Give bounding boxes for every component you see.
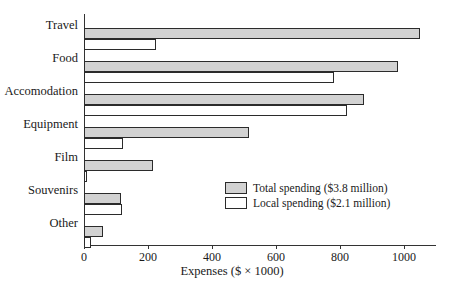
category-label-equipment: Equipment — [0, 118, 78, 130]
x-tick — [404, 245, 405, 249]
plot-area — [84, 14, 436, 245]
bar-food-total — [84, 61, 398, 72]
bar-other-total — [84, 226, 103, 237]
category-label-film: Film — [0, 151, 78, 163]
x-tick — [148, 245, 149, 249]
bar-travel-local — [84, 39, 156, 50]
x-tick-label: 0 — [54, 250, 114, 265]
x-tick-label: 800 — [310, 250, 370, 265]
chart-legend: Total spending ($3.8 million) Local spen… — [225, 180, 390, 210]
bar-other-local — [84, 237, 91, 248]
x-tick — [212, 245, 213, 249]
category-label-food: Food — [0, 52, 78, 64]
legend-item-local: Local spending ($2.1 million) — [225, 195, 390, 210]
expenses-bar-chart: TravelFoodAccomodationEquipmentFilmSouve… — [0, 0, 464, 294]
x-axis-line — [84, 245, 436, 246]
category-label-other: Other — [0, 217, 78, 229]
x-tick — [84, 245, 85, 249]
x-tick — [276, 245, 277, 249]
bar-film-total — [84, 160, 153, 171]
category-label-souvenirs: Souvenirs — [0, 184, 78, 196]
x-tick-label: 1000 — [374, 250, 434, 265]
bar-accomodation-local — [84, 105, 347, 116]
category-label-accomodation: Accomodation — [0, 85, 78, 97]
category-label-travel: Travel — [0, 19, 78, 31]
legend-label-local: Local spending ($2.1 million) — [253, 197, 390, 209]
x-tick — [340, 245, 341, 249]
bar-film-local — [84, 171, 87, 182]
bar-equipment-local — [84, 138, 123, 149]
bar-travel-total — [84, 28, 420, 39]
legend-item-total: Total spending ($3.8 million) — [225, 180, 390, 195]
bar-food-local — [84, 72, 334, 83]
legend-swatch-local-icon — [225, 197, 247, 209]
bar-equipment-total — [84, 127, 249, 138]
bar-souvenirs-local — [84, 204, 122, 215]
x-tick-label: 400 — [182, 250, 242, 265]
bar-souvenirs-total — [84, 193, 121, 204]
legend-label-total: Total spending ($3.8 million) — [253, 182, 388, 194]
x-tick-label: 200 — [118, 250, 178, 265]
x-axis-title: Expenses ($ × 1000) — [0, 264, 464, 279]
legend-swatch-total-icon — [225, 182, 247, 194]
x-tick-label: 600 — [246, 250, 306, 265]
bar-accomodation-total — [84, 94, 364, 105]
